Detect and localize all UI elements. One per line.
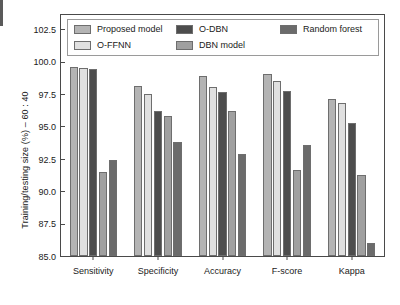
legend-swatch: [176, 25, 193, 34]
bar: [89, 69, 97, 256]
y-axis-tick: 95.0: [38, 117, 61, 135]
legend-item: Proposed model: [74, 24, 163, 34]
y-axis-tick-mark: [61, 159, 65, 160]
bar: [70, 67, 78, 256]
bar: [79, 68, 87, 256]
x-axis-tick-label: F-score: [272, 266, 303, 276]
chart-legend: Proposed modelO-FFNNO-DBNDBN modelRandom…: [67, 19, 379, 56]
bar: [134, 86, 142, 256]
bar: [164, 116, 172, 256]
y-axis-tick: 92.5: [38, 150, 61, 168]
legend-swatch: [176, 41, 193, 50]
legend-swatch: [74, 41, 91, 50]
x-axis-tick-label: Accuracy: [204, 266, 241, 276]
legend-swatch: [74, 25, 91, 34]
x-axis-tick-mark: [287, 256, 288, 260]
bar: [338, 103, 346, 256]
x-axis-tick-mark: [93, 256, 94, 260]
y-axis-tick-label: 100.0: [33, 57, 56, 67]
bar: [293, 170, 301, 256]
bar: [367, 243, 375, 256]
legend-item: O-DBN: [176, 24, 228, 34]
bar: [328, 99, 336, 256]
page-edge-mark: [0, 0, 3, 26]
y-axis-tick-mark: [61, 29, 65, 30]
y-axis-tick-mark: [61, 224, 65, 225]
legend-label: Proposed model: [97, 24, 163, 34]
bar: [154, 111, 162, 256]
y-axis-tick-mark: [61, 62, 65, 63]
bar: [173, 142, 181, 256]
y-axis-tick: 102.5: [33, 20, 61, 38]
y-axis-tick-label: 92.5: [38, 155, 56, 165]
y-axis-tick-mark: [61, 126, 65, 127]
x-axis-tick-label: Sensitivity: [73, 266, 114, 276]
y-axis-tick: 85.0: [38, 247, 61, 265]
bar: [109, 160, 117, 256]
y-axis-tick-label: 85.0: [38, 252, 56, 262]
y-axis-tick-label: 90.0: [38, 187, 56, 197]
y-axis-tick-mark: [61, 191, 65, 192]
bar: [283, 91, 291, 256]
bar: [144, 94, 152, 256]
bar: [199, 76, 207, 256]
legend-item: O-FFNN: [74, 40, 131, 50]
bar: [303, 145, 311, 256]
y-axis-tick-label: 97.5: [38, 90, 56, 100]
legend-swatch: [280, 25, 297, 34]
y-axis-tick: 90.0: [38, 182, 61, 200]
bar: [209, 87, 217, 256]
legend-item: DBN model: [176, 40, 245, 50]
y-axis-title: Training/testing size (%) – 60 : 40: [20, 60, 30, 260]
x-axis-tick-label: Specificity: [138, 266, 179, 276]
y-axis-tick-mark: [61, 94, 65, 95]
bar: [348, 123, 356, 256]
bar: [238, 154, 246, 256]
legend-label: Random forest: [303, 24, 362, 34]
x-axis-tick-label: Kappa: [339, 266, 365, 276]
y-axis-tick: 100.0: [33, 53, 61, 71]
y-axis-tick: 87.5: [38, 215, 61, 233]
bar: [273, 81, 281, 256]
y-axis-tick-label: 102.5: [33, 25, 56, 35]
legend-label: DBN model: [199, 40, 245, 50]
y-axis-tick: 97.5: [38, 85, 61, 103]
y-axis-tick-label: 95.0: [38, 122, 56, 132]
bar: [357, 175, 365, 256]
legend-label: O-FFNN: [97, 40, 131, 50]
x-axis-tick-mark: [222, 256, 223, 260]
y-axis-tick-label: 87.5: [38, 219, 56, 229]
bar: [218, 92, 226, 256]
x-axis-tick-mark: [157, 256, 158, 260]
y-axis-tick-mark: [61, 256, 65, 257]
bar-chart-figure: Training/testing size (%) – 60 : 40 85.0…: [0, 0, 400, 305]
bar: [263, 74, 271, 256]
legend-label: O-DBN: [199, 24, 228, 34]
bar: [99, 172, 107, 256]
x-axis-tick-mark: [351, 256, 352, 260]
bar: [228, 111, 236, 256]
plot-frame: 85.087.590.092.595.097.5100.0102.5 Propo…: [60, 14, 385, 257]
legend-item: Random forest: [280, 24, 362, 34]
